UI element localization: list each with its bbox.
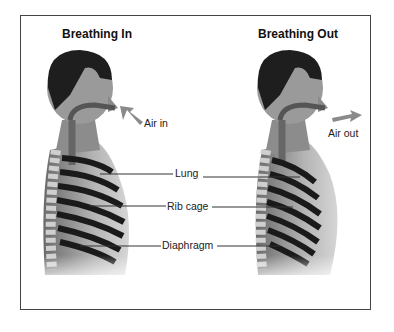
label-lung: Lung (174, 167, 199, 179)
label-rib-cage: Rib cage (166, 200, 209, 212)
figure-breathing-out (250, 50, 362, 285)
air-out-arrow-icon (332, 110, 362, 122)
title-breathing-in: Breathing In (62, 27, 132, 41)
figure-breathing-in (40, 50, 143, 285)
label-air-in: Air in (143, 117, 169, 129)
label-diaphragm: Diaphragm (161, 239, 214, 251)
label-air-out: Air out (327, 127, 359, 139)
air-in-arrow-icon (120, 106, 143, 125)
breathing-illustration (0, 0, 394, 332)
title-breathing-out: Breathing Out (258, 27, 338, 41)
